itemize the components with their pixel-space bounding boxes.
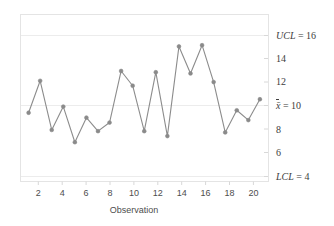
xtick-label-14: 14 bbox=[177, 188, 187, 198]
xtick-label-16: 16 bbox=[201, 188, 211, 198]
control-chart: UCL = 16 14 12 x̄ = 10 8 6 LCL = 4 2 4 6… bbox=[0, 0, 334, 226]
data-point bbox=[131, 84, 135, 88]
data-point bbox=[246, 118, 250, 122]
data-point bbox=[50, 128, 54, 132]
data-point bbox=[235, 108, 239, 112]
xtick-label-8: 8 bbox=[107, 188, 112, 198]
xtick-label-10: 10 bbox=[129, 188, 139, 198]
data-point bbox=[27, 111, 31, 115]
data-point bbox=[177, 45, 181, 49]
ucl-label: UCL = 16 bbox=[276, 30, 316, 41]
lcl-label: LCL = 4 bbox=[276, 171, 309, 182]
xtick-label-20: 20 bbox=[248, 188, 258, 198]
data-point bbox=[85, 116, 89, 120]
data-point bbox=[38, 79, 42, 83]
ytick-label-14: 14 bbox=[276, 53, 286, 64]
data-point bbox=[61, 105, 65, 109]
xtick-label-4: 4 bbox=[60, 188, 65, 198]
ytick-label-12: 12 bbox=[276, 76, 286, 87]
xtick-label-12: 12 bbox=[153, 188, 163, 198]
x-tick-marks bbox=[38, 182, 253, 186]
xtick-label-18: 18 bbox=[224, 188, 234, 198]
data-point bbox=[223, 130, 227, 134]
data-point bbox=[165, 134, 169, 138]
plot-frame bbox=[21, 15, 269, 182]
data-point bbox=[119, 69, 123, 73]
data-point bbox=[108, 121, 112, 125]
ytick-label-6: 6 bbox=[276, 147, 281, 158]
data-point bbox=[96, 129, 100, 133]
data-point bbox=[142, 129, 146, 133]
data-point bbox=[200, 43, 204, 47]
xtick-label-6: 6 bbox=[84, 188, 89, 198]
data-point bbox=[189, 72, 193, 76]
center-line-label: x̄ = 10 bbox=[276, 100, 301, 111]
data-point bbox=[212, 80, 216, 84]
data-point bbox=[73, 140, 77, 144]
data-point bbox=[154, 70, 158, 74]
ytick-label-8: 8 bbox=[276, 124, 281, 135]
data-point bbox=[258, 97, 262, 101]
x-bar-symbol: x̄ bbox=[276, 100, 280, 111]
xtick-label-2: 2 bbox=[36, 188, 41, 198]
x-axis-title: Observation bbox=[0, 205, 268, 215]
